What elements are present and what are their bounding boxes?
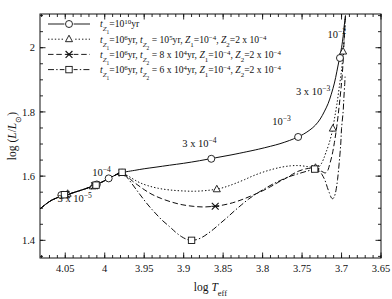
marker-circle: [336, 54, 343, 61]
y-tick-label: 2: [30, 42, 35, 53]
marker-triangle: [329, 125, 336, 131]
y-axis-label: log (L/L⊙): [6, 112, 23, 160]
y-tick-label: 1.6: [22, 171, 35, 182]
marker-cross: [211, 203, 219, 210]
marker-square: [93, 182, 99, 188]
x-tick-label: 3.85: [214, 263, 232, 274]
marker-square: [119, 169, 125, 175]
legend-label-4: tZ1=106yr, tZ2 = 6 x 104yr, Z1=10−4, Z2=…: [100, 63, 281, 80]
x-tick-label: 3.9: [177, 263, 190, 274]
x-tick-label: 4.05: [56, 263, 74, 274]
marker-circle: [208, 155, 215, 162]
marker-square: [188, 237, 194, 243]
legend-label-1: tZ1=1010yr: [100, 18, 140, 35]
annotation-label: 10−2: [327, 27, 346, 41]
x-tick-label: 3.8: [256, 263, 269, 274]
y-tick-label: 1.8: [22, 107, 35, 118]
x-tick-label: 3.65: [372, 263, 390, 274]
x-tick-label: 3.95: [135, 263, 153, 274]
marker-circle: [105, 175, 112, 182]
marker-square: [66, 66, 72, 72]
chart-root: 4.0543.953.93.853.83.753.73.651.41.61.82…: [0, 0, 392, 299]
annotation-label: 10−3: [272, 113, 291, 127]
marker-square: [311, 166, 317, 172]
annotation-label: 3 x 10−5: [58, 190, 93, 204]
x-tick-label: 4: [102, 263, 108, 274]
x-tick-label: 3.7: [335, 263, 348, 274]
y-tick-label: 1.4: [22, 235, 36, 246]
marker-circle: [66, 21, 73, 28]
annotation-label: 3 x 10−3: [296, 84, 331, 98]
legend: tZ1=1010yrtZ1=106yr, tZ2 = 105yr, Z1=10−…: [48, 18, 281, 81]
curve-path-4: [40, 77, 345, 241]
plot-svg: 4.0543.953.93.853.83.753.73.651.41.61.82…: [0, 0, 392, 299]
marker-circle: [295, 133, 302, 140]
annotation-label: 3 x 10−4: [182, 136, 217, 150]
x-axis-label: log Teff: [194, 281, 227, 298]
x-tick-label: 3.75: [293, 263, 311, 274]
